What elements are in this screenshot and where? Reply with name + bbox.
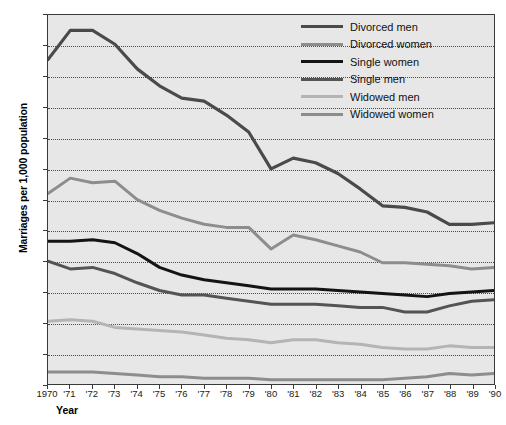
x-axis-tick-mark — [450, 385, 451, 389]
x-axis-tick-mark — [293, 385, 294, 389]
series-line-widowed-men — [48, 320, 494, 349]
legend-item-single-men[interactable]: Single men — [301, 71, 486, 89]
x-axis-tick-label: '90 — [478, 388, 506, 399]
x-axis-tick-mark — [69, 385, 70, 389]
legend-label: Single women — [350, 56, 419, 68]
legend-swatch-icon — [301, 113, 343, 116]
legend-label: Divorced women — [350, 38, 432, 50]
legend-label: Single men — [350, 73, 405, 85]
legend-item-divorced-men[interactable]: Divorced men — [301, 18, 486, 36]
legend-swatch-icon — [301, 25, 343, 28]
legend-swatch-icon — [301, 78, 343, 81]
x-axis-tick-mark — [249, 385, 250, 389]
x-axis-tick-mark — [92, 385, 93, 389]
legend-swatch-icon — [301, 95, 343, 98]
x-axis-tick-mark — [114, 385, 115, 389]
legend-item-divorced-women[interactable]: Divorced women — [301, 36, 486, 54]
legend-label: Divorced men — [350, 21, 418, 33]
x-axis-tick-mark — [338, 385, 339, 389]
x-axis-tick-mark — [316, 385, 317, 389]
series-line-divorced-women — [48, 178, 494, 269]
x-axis-tick-mark — [181, 385, 182, 389]
x-axis-title: Year — [56, 404, 78, 416]
series-line-widowed-women — [48, 372, 494, 380]
legend-item-widowed-men[interactable]: Widowed men — [301, 88, 486, 106]
legend-swatch-icon — [301, 60, 343, 63]
x-axis-tick-mark — [361, 385, 362, 389]
legend-swatch-icon — [301, 43, 343, 46]
x-axis-tick-mark — [47, 385, 48, 389]
y-axis-title: Marriages per 1,000 population — [17, 63, 29, 293]
x-axis-tick-mark — [137, 385, 138, 389]
x-axis-tick-mark — [428, 385, 429, 389]
x-axis-tick-mark — [405, 385, 406, 389]
legend-label: Widowed men — [350, 91, 420, 103]
x-axis-tick-mark — [204, 385, 205, 389]
x-axis-tick-mark — [271, 385, 272, 389]
legend-item-single-women[interactable]: Single women — [301, 53, 486, 71]
chart-legend: Divorced menDivorced womenSingle womenSi… — [301, 18, 486, 123]
legend-label: Widowed women — [350, 108, 434, 120]
x-axis-tick-mark — [473, 385, 474, 389]
x-axis-tick-mark — [383, 385, 384, 389]
series-line-single-men — [48, 261, 494, 312]
x-axis-tick-mark — [159, 385, 160, 389]
x-axis-tick-mark — [495, 385, 496, 389]
x-axis-tick-mark — [226, 385, 227, 389]
legend-item-widowed-women[interactable]: Widowed women — [301, 106, 486, 124]
chart-figure: Marriages per 1,000 population 020406080… — [0, 0, 506, 425]
